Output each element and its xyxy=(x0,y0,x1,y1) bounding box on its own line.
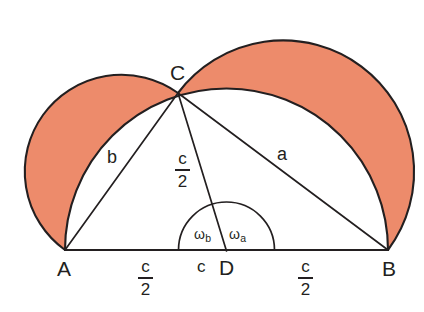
geometry-figure: A B C D b a c c 2 c 2 c 2 ωb ωa xyxy=(0,0,424,312)
fraction-denominator: 2 xyxy=(301,279,310,298)
fraction-cd-median: c 2 xyxy=(175,150,190,190)
vertex-label-A: A xyxy=(57,258,71,279)
fraction-denominator: 2 xyxy=(178,171,187,190)
omega-symbol: ω xyxy=(229,226,240,242)
omega-symbol: ω xyxy=(194,226,205,242)
side-label-b: b xyxy=(107,148,117,166)
fraction-numerator: c xyxy=(301,258,310,277)
omega-subscript: b xyxy=(205,232,211,244)
vertex-label-C: C xyxy=(170,62,185,83)
side-label-a: a xyxy=(277,145,287,163)
fraction-denominator: 2 xyxy=(141,279,150,298)
lune-right-fill xyxy=(178,40,414,250)
omega-subscript: a xyxy=(240,232,246,244)
lune-left-fill xyxy=(25,75,178,250)
fraction-db-right: c 2 xyxy=(298,258,313,298)
angle-label-omega-a: ωa xyxy=(229,227,246,243)
segment-label-c: c xyxy=(197,258,206,275)
fraction-numerator: c xyxy=(141,258,150,277)
vertex-label-D: D xyxy=(219,257,234,278)
vertex-label-B: B xyxy=(382,258,396,279)
angle-arc-at-D xyxy=(179,202,275,250)
angle-label-omega-b: ωb xyxy=(194,227,211,243)
fraction-numerator: c xyxy=(178,150,187,169)
fraction-ad-left: c 2 xyxy=(138,258,153,298)
